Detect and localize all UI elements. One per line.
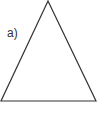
triangle-outline: [1, 1, 96, 101]
triangle-icon: [0, 0, 97, 113]
